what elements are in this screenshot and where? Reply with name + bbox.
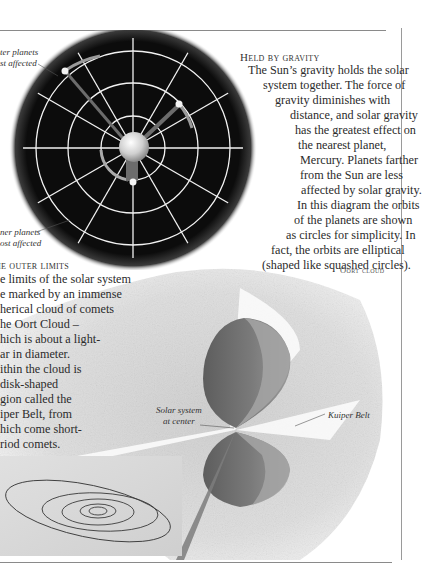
inner-planets-caption: ner planets ost affected [0,227,41,249]
text-line: hich come short- [0,422,82,437]
text-line: herical cloud of comets [0,302,114,317]
outer-planets-caption: ter planets st affected [0,47,38,69]
text-line: gravity diminishes with [275,93,390,108]
text-line: affected by solar gravity. [301,183,422,198]
text-line: ar in diameter. [0,347,70,362]
text-line: distance, and solar gravity [290,108,418,123]
text-line: iper Belt, from [0,407,72,422]
orbit-inset-panel [0,456,182,556]
text-line: he Oort Cloud – [0,317,79,332]
text-line: as circles for simplicity. In [286,228,416,243]
gravity-heading: Held by gravity [240,51,320,63]
text-line: The Sun’s gravity holds the solar [248,63,409,78]
text-line: e marked by an immense [0,287,122,302]
text-line: system together. The force of [263,78,405,93]
text-line: riod comets. [0,437,60,452]
planet-mid-icon [176,101,183,108]
planet-outer-icon [62,68,69,75]
caption-line: ner planets [0,227,41,238]
text-line: disk-shaped [0,377,58,392]
planet-inner-icon [130,179,137,186]
sun-icon [119,132,149,162]
bottom-rule [0,562,392,563]
text-line: e limits of the solar system [0,272,131,287]
text-line: of the planets are shown [294,213,412,228]
solar-system-label: Solar system at center [156,405,202,427]
caption-line: ter planets [0,47,38,58]
text-line: In this diagram the orbits [297,198,420,213]
text-line: from the Sun are less [300,168,403,183]
text-line: fact, the orbits are elliptical [271,243,405,258]
text-line: ithin the cloud is [0,362,82,377]
text-line: Mercury. Planets farther [300,153,418,168]
text-line: gion called the [0,392,72,407]
caption-line: ost affected [0,238,41,249]
caption-line: Solar system [156,405,202,416]
text-line: has the greatest effect on [295,123,416,138]
text-line: hich is about a light- [0,332,100,347]
caption-line: st affected [0,58,38,69]
outer-limits-heading: he outer limits [0,259,69,271]
text-line: the nearest planet, [298,138,386,153]
caption-line: at center [156,416,202,427]
kuiper-belt-label: Kuiper Belt [328,410,370,421]
oort-cloud-label: Oort cloud [340,265,385,275]
